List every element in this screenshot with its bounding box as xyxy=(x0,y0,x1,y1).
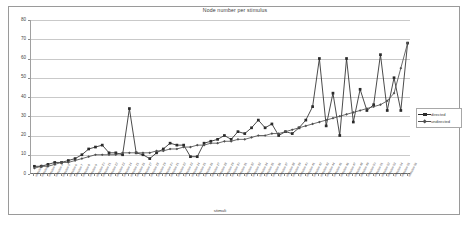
data-point xyxy=(243,138,246,141)
y-axis-tick xyxy=(28,136,30,137)
series-line xyxy=(34,43,407,166)
y-axis-tick-label: 40 xyxy=(12,95,26,100)
data-point xyxy=(189,146,192,149)
data-point xyxy=(257,119,260,122)
data-point xyxy=(101,144,104,147)
data-point xyxy=(87,155,90,158)
data-point xyxy=(304,125,307,128)
data-point xyxy=(304,119,307,122)
data-point xyxy=(148,157,151,160)
data-point xyxy=(189,155,192,158)
data-point xyxy=(291,128,294,131)
y-axis-tick xyxy=(28,78,30,79)
data-point xyxy=(237,138,240,141)
data-point xyxy=(318,121,321,124)
data-point xyxy=(250,126,253,129)
data-point xyxy=(399,109,402,112)
data-point xyxy=(196,155,199,158)
data-point xyxy=(359,88,362,91)
data-point xyxy=(379,53,382,56)
data-point xyxy=(237,130,240,133)
data-point xyxy=(169,148,172,151)
y-axis-tick-label: 20 xyxy=(12,133,26,138)
data-point xyxy=(176,144,179,147)
chart-title: Node number per stimulus xyxy=(120,7,350,13)
y-axis-tick-label: 10 xyxy=(12,152,26,157)
data-point xyxy=(87,148,90,151)
data-point xyxy=(250,136,253,139)
data-point xyxy=(311,105,314,108)
data-point xyxy=(338,134,341,137)
data-point xyxy=(94,153,97,156)
y-axis-tick xyxy=(28,155,30,156)
data-point xyxy=(81,157,84,160)
y-axis-tick-label: 50 xyxy=(12,75,26,80)
legend-item-undirected: undirected xyxy=(418,118,459,125)
data-point xyxy=(176,148,179,151)
data-point xyxy=(216,138,219,141)
data-point xyxy=(399,67,402,70)
data-point xyxy=(325,125,328,128)
data-point xyxy=(216,142,219,145)
data-point xyxy=(223,140,226,143)
series-layer xyxy=(31,20,411,174)
data-point xyxy=(264,134,267,137)
data-point xyxy=(257,134,260,137)
data-point xyxy=(264,126,267,129)
legend-marker-diamond xyxy=(418,119,431,125)
data-point xyxy=(359,109,362,112)
data-point xyxy=(393,76,396,79)
plot-area xyxy=(30,20,410,174)
data-point xyxy=(318,57,321,60)
chart-legend: directed undirected xyxy=(416,108,462,128)
y-axis-tick xyxy=(28,39,30,40)
data-point xyxy=(81,153,84,156)
data-point xyxy=(223,134,226,137)
x-axis-title: stimuli xyxy=(30,208,410,213)
data-point xyxy=(386,109,389,112)
data-point xyxy=(128,107,131,110)
data-point xyxy=(169,142,172,145)
data-point xyxy=(338,115,341,118)
y-axis-tick-label: 80 xyxy=(12,18,26,23)
y-axis-tick xyxy=(28,20,30,21)
y-axis-tick xyxy=(28,174,30,175)
x-axis-labels: stimulus 1stimulus 2stimulus 3stimulus 4… xyxy=(30,176,410,206)
legend-marker-square xyxy=(418,112,431,118)
data-point xyxy=(148,151,151,154)
data-point xyxy=(311,123,314,126)
y-axis-tick-label: 0 xyxy=(12,172,26,177)
data-point xyxy=(332,117,335,120)
y-axis-tick-label: 30 xyxy=(12,114,26,119)
data-point xyxy=(243,132,246,135)
y-axis-tick xyxy=(28,59,30,60)
legend-label: undirected xyxy=(431,119,450,124)
data-point xyxy=(332,92,335,95)
data-point xyxy=(128,151,131,154)
data-point xyxy=(352,121,355,124)
legend-item-directed: directed xyxy=(418,111,459,118)
series-directed xyxy=(33,42,409,168)
data-point xyxy=(291,132,294,135)
y-axis-tick-label: 70 xyxy=(12,37,26,42)
data-point xyxy=(94,146,97,149)
data-point xyxy=(101,153,104,156)
y-axis-tick xyxy=(28,97,30,98)
y-axis-tick-label: 60 xyxy=(12,56,26,61)
y-axis-tick xyxy=(28,116,30,117)
series-undirected xyxy=(33,42,409,170)
data-point xyxy=(345,57,348,60)
data-point xyxy=(196,144,199,147)
legend-label: directed xyxy=(431,112,446,117)
chart-container: Node number per stimulus 010203040506070… xyxy=(0,0,469,229)
data-point xyxy=(271,123,274,126)
data-point xyxy=(271,132,274,135)
data-point xyxy=(345,113,348,116)
